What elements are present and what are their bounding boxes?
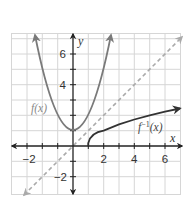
y-tick-label-6: 6 xyxy=(60,48,66,60)
f-inverse-label-sup: −1 xyxy=(141,120,150,129)
y-axis-label: y xyxy=(77,34,84,48)
x-tick-label-4: 4 xyxy=(131,153,138,165)
f-label: f(x) xyxy=(31,102,47,115)
function-inverse-graph: −2 2 4 6 6 4 −2 x y f(x) f−1(x) xyxy=(0,0,190,202)
f-inverse-label-arg: (x) xyxy=(150,121,163,134)
x-tick-label-neg2: −2 xyxy=(22,153,35,165)
y-tick-label-neg2: −2 xyxy=(54,171,67,183)
x-axis-label: x xyxy=(169,131,176,145)
x-tick-label-2: 2 xyxy=(100,153,106,165)
f-inverse-label: f−1(x) xyxy=(138,120,163,134)
y-tick-label-4: 4 xyxy=(60,79,67,91)
identity-line xyxy=(24,37,182,195)
x-tick-label-6: 6 xyxy=(162,153,168,165)
